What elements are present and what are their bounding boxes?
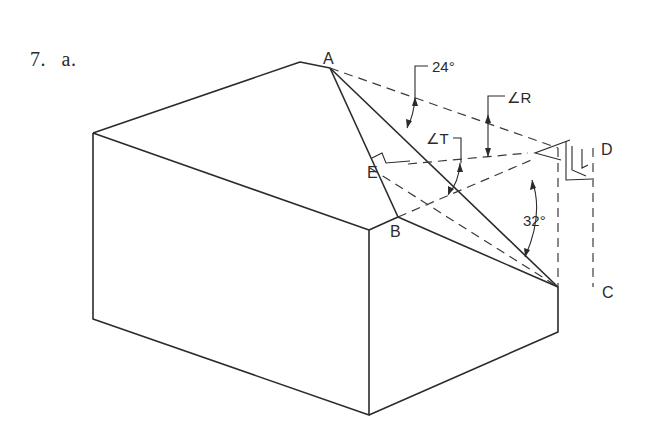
chevron-mark (535, 140, 570, 160)
arrowhead-T-top (457, 163, 463, 172)
bracket-mark-2 (572, 146, 586, 176)
right-angle-mark-E (372, 153, 410, 163)
leader-24 (415, 66, 428, 97)
angle-32-label: 32° (523, 212, 546, 229)
dashed-E-D (408, 153, 528, 164)
angle-24-label: 24° (432, 58, 455, 75)
angle-R-label: ∠R (507, 89, 531, 106)
point-labels: A B C D E (323, 50, 614, 301)
hip-line-AB (330, 68, 398, 217)
roof-ridge (93, 62, 330, 133)
dashed-B-D (398, 158, 536, 217)
angle-T-label: ∠T (426, 130, 449, 147)
point-label-C: C (602, 284, 614, 301)
angle-32-dimension: 32° (523, 180, 546, 257)
bracket-mark-3 (582, 149, 588, 168)
arrowhead-R-top (485, 114, 491, 123)
point-label-D: D (601, 141, 613, 158)
point-label-B: B (390, 223, 401, 240)
point-label-E: E (367, 164, 378, 181)
leader-R (488, 96, 505, 114)
angle-R-dimension: ∠R (485, 89, 531, 157)
angle-T-dimension: ∠T (426, 130, 463, 195)
angle-24-dimension: 24° (406, 58, 455, 128)
right-wall (369, 287, 558, 415)
arrowhead-24-bottom (406, 119, 412, 128)
bracket-mark-1 (566, 141, 592, 180)
point-label-A: A (323, 50, 334, 67)
arrowhead-R-bottom (485, 148, 491, 157)
left-wall (93, 133, 369, 415)
isometric-roof-diagram: 24° ∠R ∠T 32° A B C D E (0, 0, 647, 430)
arrowhead-32-bottom (524, 248, 530, 257)
